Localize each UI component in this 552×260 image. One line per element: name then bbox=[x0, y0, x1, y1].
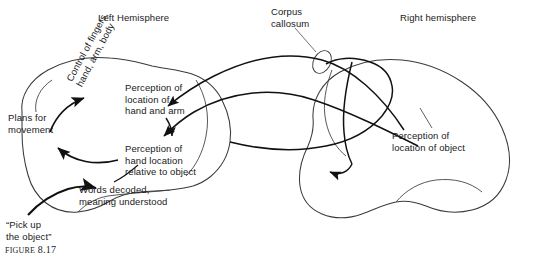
arrow-plans-to-control bbox=[50, 98, 84, 132]
label-corpus-callosum: Corpus callosum bbox=[271, 6, 309, 29]
figure-caption-label: Figure bbox=[5, 243, 35, 255]
right-brain-frontal-crease bbox=[324, 70, 346, 156]
label-spoken-instruction: “Pick up the object” bbox=[6, 219, 51, 242]
right-brain-temporal-crease bbox=[396, 180, 436, 202]
tract-left-to-right-return-upper bbox=[370, 62, 392, 86]
figure-caption-number: 8.17 bbox=[38, 244, 56, 255]
label-perception-of-location-of-object: Perception of location of object bbox=[392, 130, 465, 153]
arrow-control-to-plans bbox=[58, 148, 118, 163]
corpus-callosum-connector bbox=[295, 28, 335, 77]
brain-hemispheres-figure: Left Hemisphere Corpus callosum Right he… bbox=[0, 0, 552, 260]
left-brain-frontal-crease bbox=[36, 80, 52, 112]
figure-caption: Figure 8.17 bbox=[5, 243, 56, 255]
interhemispheric-arrows bbox=[164, 56, 418, 173]
leader-perception-object bbox=[420, 108, 432, 128]
figure-artwork bbox=[0, 0, 552, 260]
label-perception-of-location-of-hand-and-arm: Perception of location of hand and arm bbox=[125, 82, 185, 117]
label-right-hemisphere: Right hemisphere bbox=[400, 12, 476, 24]
label-plans-for-movement: Plans for movement bbox=[8, 112, 53, 135]
tract-left-to-right-return bbox=[230, 86, 393, 149]
label-words-decoded-meaning-understood: Words decoded, meaning understood bbox=[79, 184, 167, 207]
label-leader-lines bbox=[420, 108, 432, 128]
label-perception-of-hand-location-relative-to-object: Perception of hand location relative to … bbox=[125, 143, 196, 178]
arrow-into-right-object-region bbox=[330, 164, 352, 174]
right-brain-sylvian-fissure bbox=[436, 180, 482, 193]
corpus-callosum-leader-line bbox=[295, 28, 316, 52]
